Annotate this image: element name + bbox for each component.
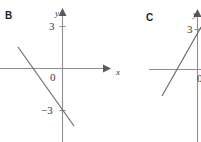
origin-label-c: 0 xyxy=(197,73,201,84)
x-axis-arrowhead-b xyxy=(103,65,111,73)
plot-b xyxy=(0,0,135,142)
figure-container: B 3 0 −3 y x C xyxy=(0,0,201,142)
y-tick-label-neg3-b: −3 xyxy=(41,105,53,116)
panel-b: B 3 0 −3 y x xyxy=(0,0,135,142)
y-axis-label-b: y xyxy=(55,9,59,18)
panel-c: C 3 0 y xyxy=(135,0,201,142)
plot-c xyxy=(135,0,201,142)
y-axis-label-c: y xyxy=(193,10,197,19)
y-tick-label-3-c: 3 xyxy=(187,24,193,35)
graph-line-c xyxy=(162,27,201,96)
y-tick-label-3-b: 3 xyxy=(49,21,55,32)
y-axis-arrowhead-b xyxy=(59,8,67,16)
x-axis-label-b: x xyxy=(116,68,120,77)
origin-label-b: 0 xyxy=(50,72,56,83)
